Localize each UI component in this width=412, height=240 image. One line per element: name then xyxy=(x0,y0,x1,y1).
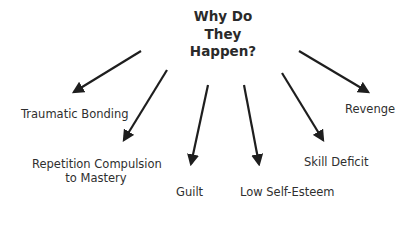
label-text: Traumatic Bonding xyxy=(21,107,129,121)
label-guilt: Guilt xyxy=(176,185,203,199)
label-revenge: Revenge xyxy=(345,102,395,116)
label-text: Repetition Compulsion xyxy=(32,157,160,171)
arrow-revenge xyxy=(299,51,368,92)
label-skill-deficit: Skill Deficit xyxy=(304,155,368,169)
label-repetition-compulsion: Repetition Compulsion to Mastery xyxy=(32,157,160,185)
label-text: Revenge xyxy=(345,102,395,116)
arrow-guilt xyxy=(191,85,208,164)
label-text: Low Self-Esteem xyxy=(240,185,335,199)
label-text: Skill Deficit xyxy=(304,155,368,169)
label-text: Guilt xyxy=(176,185,203,199)
arrow-low-self-esteem xyxy=(244,85,259,164)
arrow-repetition-compulsion xyxy=(124,70,167,140)
arrow-skill-deficit xyxy=(282,73,323,140)
arrow-traumatic-bonding xyxy=(74,51,141,92)
label-traumatic-bonding: Traumatic Bonding xyxy=(21,107,129,121)
label-low-self-esteem: Low Self-Esteem xyxy=(240,185,335,199)
label-text: to Mastery xyxy=(32,171,160,185)
